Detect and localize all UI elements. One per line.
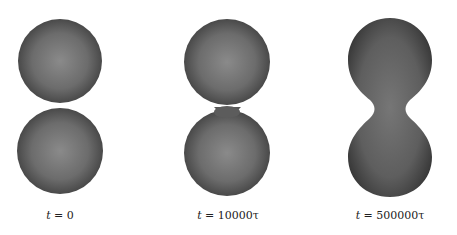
bottom-sphere <box>17 108 103 194</box>
bottom-sphere <box>184 110 270 196</box>
panel-1-spheres <box>17 19 103 194</box>
panel-3-droplet <box>348 18 432 197</box>
caption-panel-2: t = 10000τ <box>168 209 288 222</box>
peanut-body <box>348 18 432 197</box>
top-sphere <box>184 19 270 105</box>
time-value: 10000τ <box>218 209 259 222</box>
neck-ring <box>214 106 240 118</box>
figure-canvas <box>0 0 457 235</box>
time-value: 0 <box>67 209 74 222</box>
equals-sign: = <box>51 209 67 222</box>
caption-panel-1: t = 0 <box>0 209 120 222</box>
caption-panel-3: t = 500000τ <box>330 209 450 222</box>
panel-2-droplets <box>184 19 270 196</box>
top-sphere <box>18 19 102 103</box>
time-value: 500000τ <box>376 209 424 222</box>
equals-sign: = <box>202 209 218 222</box>
equals-sign: = <box>360 209 376 222</box>
